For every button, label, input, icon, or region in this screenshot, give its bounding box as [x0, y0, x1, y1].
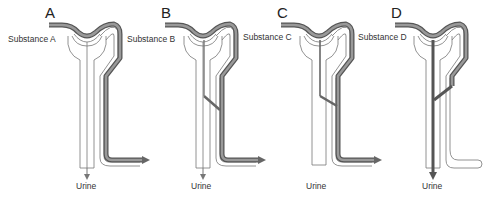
panel-letter: B	[161, 4, 171, 21]
urine-label: Urine	[76, 181, 96, 191]
panel-letter: A	[45, 4, 55, 21]
panel-a: A Substance A Urine	[0, 0, 120, 199]
substance-label: Substance D	[358, 32, 407, 42]
urine-label: Urine	[306, 181, 326, 191]
panel-letter: D	[391, 4, 402, 21]
panel-d: D Substance D Urine	[346, 0, 486, 199]
nephron-d-drawing	[346, 0, 486, 199]
urine-label: Urine	[422, 181, 442, 191]
panel-b: B Substance B Urine	[116, 0, 236, 199]
panel-letter: C	[277, 4, 288, 21]
substance-label: Substance B	[127, 34, 175, 44]
substance-label: Substance A	[8, 34, 56, 44]
substance-label: Substance C	[243, 32, 292, 42]
panel-c: C Substance C Urine	[232, 0, 352, 199]
urine-label: Urine	[191, 181, 211, 191]
